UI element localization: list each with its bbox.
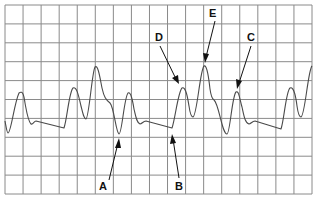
label-d: D xyxy=(155,31,163,43)
diagram-background xyxy=(0,0,318,197)
label-a: A xyxy=(99,180,107,192)
label-b: B xyxy=(175,180,183,192)
label-e: E xyxy=(209,7,216,19)
waveform-diagram: A B C D E xyxy=(0,0,318,197)
label-c: C xyxy=(247,31,255,43)
